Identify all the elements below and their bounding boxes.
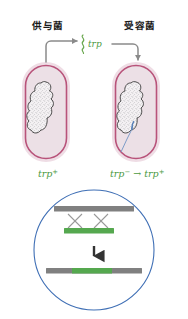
inset-diagram (34, 190, 154, 310)
recipient-uptake-arrow (112, 44, 138, 60)
inset-donor-fragment-bar (64, 228, 114, 234)
figure-graphics (0, 0, 188, 319)
donor-release-arrow (46, 41, 77, 62)
donor-cell (22, 62, 70, 162)
trp-dna-fragment-squiggle (82, 35, 84, 54)
inset-recipient-chromosome-bar (54, 206, 134, 212)
recipient-cell (112, 62, 160, 162)
transformation-figure: 供与菌 受容菌 trp trp+ trp− → trp+ trp− trp+ t… (0, 0, 188, 319)
transfer-arrows (46, 41, 138, 62)
inset-result-chromosome-bar (46, 268, 142, 274)
result-chromosome-trp-insert (72, 268, 112, 274)
